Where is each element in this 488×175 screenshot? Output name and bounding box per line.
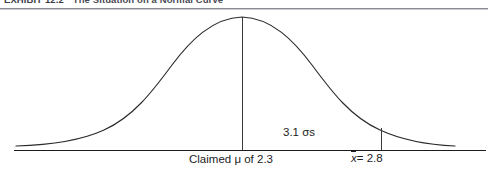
figure-caption-title: The Situation on a Normal Curve (73, 0, 223, 5)
figure-caption-label: EXHIBIT 12.2 (4, 0, 64, 5)
figure-caption-text: EXHIBIT 12.2The Situation on a Normal Cu… (4, 0, 223, 5)
x-bar-symbol: x (351, 151, 357, 164)
sigma-distance-label: 3.1 σs (283, 126, 315, 138)
sample-mean-label: x= 2.8 (351, 152, 383, 164)
normal-curve-plot (0, 10, 488, 175)
figure-caption: EXHIBIT 12.2The Situation on a Normal Cu… (0, 0, 488, 8)
normal-curve-svg (0, 10, 488, 175)
sample-mean-value: = 2.8 (357, 152, 383, 164)
claimed-mean-label: Claimed μ of 2.3 (189, 153, 273, 165)
exhibit-figure: EXHIBIT 12.2The Situation on a Normal Cu… (0, 0, 488, 175)
normal-distribution-curve (16, 17, 455, 146)
